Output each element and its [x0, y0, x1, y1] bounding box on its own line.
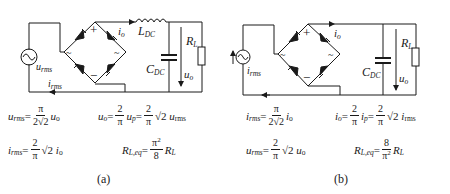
label-b-output-current: io [334, 27, 341, 39]
label-a-inductor: LDC [138, 24, 155, 39]
label-a-line-current: irms [48, 78, 62, 89]
label-b-load: RL [401, 36, 413, 51]
svg-text:~: ~ [280, 49, 286, 60]
svg-text:+: + [90, 22, 97, 37]
equation-a-1: urms= π2√2 uo [8, 104, 60, 127]
equation-b-1: irms= π2√2 io [246, 104, 293, 127]
label-b-capacitor: CDC [362, 65, 380, 80]
label-a-output-voltage: uo [184, 68, 193, 80]
load-resistor-a [198, 47, 205, 65]
equation-a-2: uo= 2π up= 2π √2 urms [98, 104, 186, 127]
svg-text:~: ~ [66, 47, 72, 58]
label-b-source: irms [247, 65, 261, 76]
label-a-source: urms [36, 61, 52, 72]
svg-text:+: + [303, 25, 310, 40]
label-a-load: RL [186, 34, 198, 49]
label-a-output-current: io [118, 25, 125, 37]
svg-text:−: − [90, 68, 97, 83]
label-b-output-voltage: uo [399, 72, 408, 84]
svg-text:−: − [303, 70, 310, 85]
wire-a-source-top [29, 23, 64, 52]
caption-b: (b) [334, 172, 348, 187]
equation-b-4: RL,eq= 8π2 RL [354, 138, 404, 161]
circuit-b [233, 24, 419, 95]
label-a-capacitor: CDC [146, 62, 164, 77]
equation-b-3: urms= 2π √2 uo [246, 138, 306, 161]
caption-a: (a) [97, 172, 110, 187]
load-resistor-b [412, 48, 419, 66]
circuit-diagrams: + − ~ ~ + − ~ [0, 0, 450, 194]
inductor-a [136, 19, 166, 22]
equation-a-4: RL,eq= π28 RL [122, 138, 176, 161]
equation-b-2: io= 2π ip= 2π √2 irms [335, 104, 416, 127]
bridge-a-symbols: + − ~ ~ [66, 22, 120, 83]
equation-a-3: irms= 2π √2 io [8, 138, 63, 161]
svg-text:~: ~ [114, 47, 120, 58]
svg-text:~: ~ [328, 49, 334, 60]
